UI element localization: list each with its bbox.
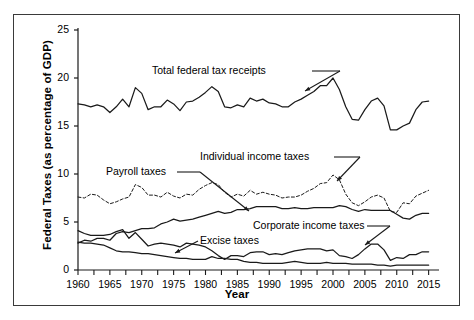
annotation-label-total-federal-tax-receipts: Total federal tax receipts — [152, 64, 266, 76]
annotation-label-individual-income-taxes: Individual income taxes — [200, 150, 309, 162]
annotation-label-corporate-income-taxes: Corporate income taxes — [253, 219, 364, 231]
y-tick-label: 10 — [45, 167, 69, 179]
y-tick-label: 5 — [45, 215, 69, 227]
y-tick-label: 0 — [45, 263, 69, 275]
y-tick-label: 25 — [45, 23, 69, 35]
figure-container: Federal Taxes (as percentage of GDP) Yea… — [0, 0, 474, 320]
series-line-individual-income-taxes — [78, 175, 429, 212]
annotation-label-payroll-taxes: Payroll taxes — [106, 165, 166, 177]
series-line-total-federal-tax-receipts — [78, 78, 429, 130]
annotation-label-excise-taxes: Excise taxes — [200, 234, 259, 246]
y-tick-label: 15 — [45, 119, 69, 131]
x-tick-label: 2015 — [409, 278, 449, 290]
y-tick-label: 20 — [45, 71, 69, 83]
